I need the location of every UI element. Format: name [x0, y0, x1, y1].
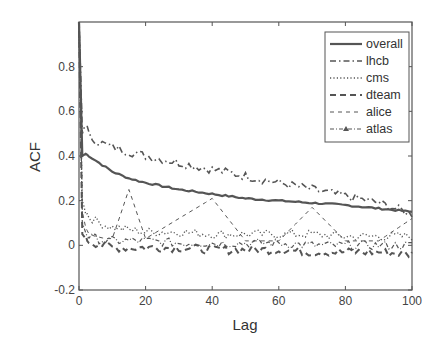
x-tick-label: 80 [339, 294, 353, 308]
acf-chart: 020406080100 -0.200.20.40.60.8 Lag ACF o… [0, 0, 448, 356]
y-axis-label: ACF [26, 142, 43, 172]
x-tick-label: 0 [76, 294, 83, 308]
y-tick-label: 0.8 [58, 60, 75, 74]
legend-label: lhcb [366, 54, 389, 68]
y-tick-label: 0.2 [58, 194, 75, 208]
legend-label: atlas [366, 122, 392, 136]
y-tick-label: 0.6 [58, 104, 75, 118]
x-tick-label: 60 [272, 294, 286, 308]
legend-label: overall [366, 37, 403, 51]
x-tick-label: 40 [206, 294, 220, 308]
legend-label: alice [366, 105, 392, 119]
legend-label: cms [366, 71, 389, 85]
x-tick-label: 20 [139, 294, 153, 308]
legend-label: dteam [366, 88, 401, 102]
y-tick-label: 0 [68, 238, 75, 252]
y-tick-label: 0.4 [58, 149, 75, 163]
y-tick-label: -0.2 [54, 283, 75, 297]
legend: overalllhcbcmsdteamaliceatlas [325, 32, 409, 142]
x-tick-label: 100 [402, 294, 422, 308]
x-axis-label: Lag [232, 316, 257, 333]
